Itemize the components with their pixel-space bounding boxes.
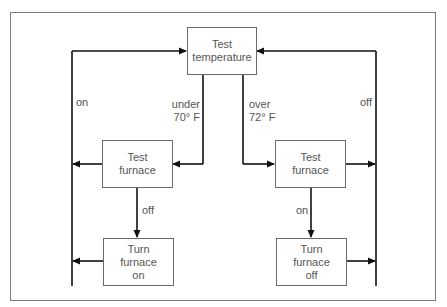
- node-test-furnace-right: Test furnace: [275, 140, 346, 188]
- node-turn-furnace-on: Turn furnace on: [103, 238, 174, 286]
- edge-label-over: over 72° F: [249, 98, 275, 124]
- edge-label-right-off: off: [360, 96, 372, 109]
- node-test-furnace-left: Test furnace: [102, 140, 173, 188]
- edge-label-under: under 70° F: [170, 98, 200, 124]
- edge-label-left-on: on: [76, 96, 88, 109]
- edge-label-left-off: off: [142, 204, 154, 217]
- node-test-temperature: Test temperature: [187, 27, 257, 75]
- node-turn-furnace-off: Turn furnace off: [276, 238, 347, 286]
- edge-label-right-on: on: [296, 204, 308, 217]
